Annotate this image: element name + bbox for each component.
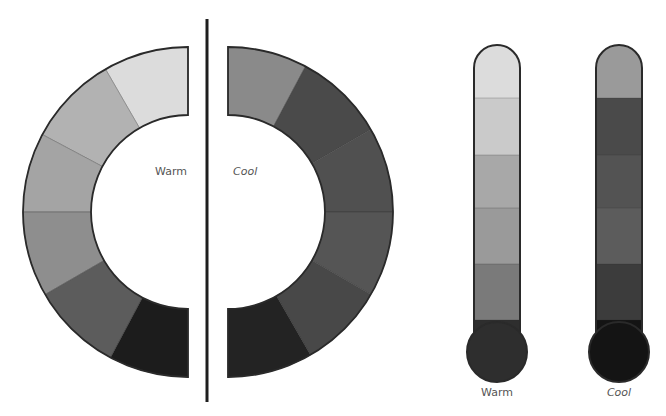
thermometer-band-5 (596, 264, 642, 320)
ring-label-cool: Cool (233, 165, 257, 178)
cool-color-ring (228, 47, 393, 377)
thermometer-band-3 (474, 155, 520, 208)
warm-thermometer (467, 45, 527, 382)
thermometer-band-4 (596, 208, 642, 264)
thermometer-band-2 (474, 98, 520, 155)
cool-thermometer (589, 45, 649, 382)
thermometer-band-4 (474, 208, 520, 264)
thermometer-band-3 (596, 155, 642, 208)
temperature-diagram: Warm Cool Warm Cool (0, 0, 666, 416)
warm-color-ring (23, 47, 188, 377)
thermometer-band-5 (474, 264, 520, 320)
thermometer-label-warm: Warm (481, 386, 513, 399)
ring-label-warm: Warm (155, 165, 187, 178)
thermometer-label-cool: Cool (607, 386, 631, 399)
thermometer-band-2 (596, 98, 642, 155)
